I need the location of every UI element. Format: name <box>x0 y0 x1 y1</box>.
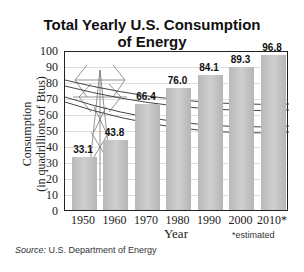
y-tick-label: 70 <box>30 93 58 105</box>
y-tick-label: 10 <box>30 189 58 201</box>
bar-value-label: 43.8 <box>95 127 135 138</box>
y-tick-label: 100 <box>30 45 58 57</box>
estimated-note: *estimated <box>232 230 275 240</box>
bar-value-label: 66.4 <box>126 91 166 102</box>
bar <box>261 55 286 210</box>
bar-value-label: 89.3 <box>221 54 261 65</box>
bar-value-label: 76.0 <box>158 75 198 86</box>
x-axis-label: Year <box>151 226 201 242</box>
bar <box>166 88 191 210</box>
source-text: U.S. Department of Energy <box>46 245 157 255</box>
bar <box>135 104 160 210</box>
bar <box>103 140 128 210</box>
bar <box>229 67 254 210</box>
bar <box>72 157 97 210</box>
y-tick-label: 0 <box>30 205 58 217</box>
source-label: Source: <box>15 245 46 255</box>
y-tick-label: 50 <box>30 125 58 137</box>
x-tick-label: 2010* <box>252 213 292 228</box>
title-line-1: Total Yearly U.S. Consumption <box>0 16 304 33</box>
bar-value-label: 33.1 <box>63 144 103 155</box>
y-tick-label: 60 <box>30 109 58 121</box>
y-tick-label: 90 <box>30 61 58 73</box>
y-tick-label: 40 <box>30 141 58 153</box>
bar-value-label: 96.8 <box>252 42 292 53</box>
bar <box>198 75 223 210</box>
y-tick-label: 30 <box>30 157 58 169</box>
source-note: Source: U.S. Department of Energy <box>15 245 157 255</box>
y-tick-label: 20 <box>30 173 58 185</box>
y-tick-label: 80 <box>30 77 58 89</box>
